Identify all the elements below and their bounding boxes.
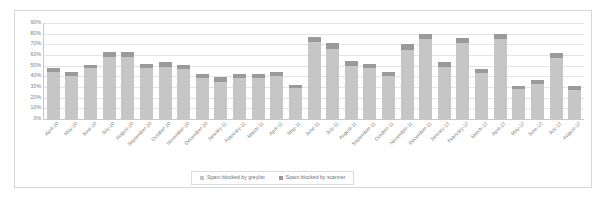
- bar-segment-greylist: [363, 68, 376, 119]
- x-axis-tick-label: April-12: [491, 121, 507, 137]
- bar-segment-greylist: [140, 68, 153, 119]
- y-axis-tick-label: 60%: [17, 52, 41, 57]
- bar-stack[interactable]: [308, 23, 321, 119]
- x-axis-tick-label: April-10: [44, 121, 60, 137]
- legend-swatch-greylist: [200, 176, 204, 180]
- bar-segment-scanner: [103, 52, 116, 57]
- bar-stack[interactable]: [363, 23, 376, 119]
- bar-stack[interactable]: [84, 23, 97, 119]
- bar-stack[interactable]: [568, 23, 581, 119]
- bar-stack[interactable]: [382, 23, 395, 119]
- x-axis-tick-label: June-10: [81, 121, 97, 137]
- bar-segment-greylist: [512, 89, 525, 119]
- x-axis-tick-label: July-10: [101, 121, 116, 136]
- bar-stack[interactable]: [401, 23, 414, 119]
- bar-segment-greylist: [233, 78, 246, 119]
- y-axis-tick-label: 10%: [17, 106, 41, 111]
- x-axis-tick-label: March-11: [246, 121, 264, 139]
- bar-stack[interactable]: [326, 23, 339, 119]
- x-axis-tick-label: May-10: [63, 121, 78, 136]
- bar-segment-scanner: [568, 86, 581, 90]
- bar-stack[interactable]: [270, 23, 283, 119]
- legend-label-greylist: Spam blocked by greylist: [207, 175, 265, 180]
- bar-segment-greylist: [65, 76, 78, 119]
- x-axis-labels: April-10May-10June-10July-10August-10Sep…: [44, 121, 584, 167]
- bar-stack[interactable]: [531, 23, 544, 119]
- y-axis-tick-label: 90%: [17, 20, 41, 25]
- bar-segment-scanner: [456, 38, 469, 43]
- bar-stack[interactable]: [456, 23, 469, 119]
- y-axis-tick-label: 80%: [17, 31, 41, 36]
- bar-segment-scanner: [196, 74, 209, 78]
- bar-segment-scanner: [214, 77, 227, 81]
- bar-stack[interactable]: [233, 23, 246, 119]
- plot-area: [44, 23, 584, 119]
- chart-container: 90%80%70%60%50%40%30%20%10%0% April-10Ma…: [14, 10, 592, 188]
- bar-stack[interactable]: [214, 23, 227, 119]
- bar-segment-scanner: [382, 72, 395, 76]
- bar-stack[interactable]: [289, 23, 302, 119]
- bar-segment-scanner: [121, 52, 134, 57]
- bar-stack[interactable]: [419, 23, 432, 119]
- bar-stack[interactable]: [47, 23, 60, 119]
- bar-segment-scanner: [326, 43, 339, 48]
- x-axis-tick-label: May-11: [287, 121, 302, 136]
- bar-segment-greylist: [326, 49, 339, 119]
- legend-label-scanner: Spam blocked by scanner: [286, 175, 346, 180]
- bar-segment-greylist: [121, 57, 134, 119]
- x-axis-tick-label: July-11: [324, 121, 339, 136]
- bar-segment-greylist: [456, 43, 469, 119]
- bar-stack[interactable]: [252, 23, 265, 119]
- bar-segment-scanner: [140, 64, 153, 68]
- y-axis-tick-label: 20%: [17, 95, 41, 100]
- bar-segment-scanner: [419, 34, 432, 39]
- bar-stack[interactable]: [438, 23, 451, 119]
- bar-stack[interactable]: [140, 23, 153, 119]
- bar-segment-greylist: [401, 50, 414, 119]
- x-axis-tick-label: August-12: [562, 121, 582, 141]
- bar-segment-greylist: [419, 39, 432, 119]
- bar-segment-greylist: [568, 90, 581, 119]
- bar-segment-scanner: [475, 69, 488, 73]
- bar-segment-greylist: [196, 78, 209, 119]
- bar-segment-greylist: [177, 69, 190, 119]
- bar-segment-scanner: [401, 44, 414, 49]
- x-axis-tick-label: March-12: [470, 121, 488, 139]
- bar-segment-greylist: [382, 76, 395, 119]
- bar-stack[interactable]: [475, 23, 488, 119]
- bar-stack[interactable]: [65, 23, 78, 119]
- bar-segment-greylist: [475, 73, 488, 119]
- y-axis-labels: 90%80%70%60%50%40%30%20%10%0%: [15, 23, 41, 119]
- bar-segment-scanner: [438, 62, 451, 66]
- bar-segment-greylist: [214, 82, 227, 119]
- bar-segment-scanner: [531, 80, 544, 84]
- bar-stack[interactable]: [345, 23, 358, 119]
- bar-segment-scanner: [345, 61, 358, 65]
- bar-segment-greylist: [252, 78, 265, 119]
- gridline: [44, 119, 584, 120]
- y-axis-tick-label: 50%: [17, 63, 41, 68]
- bar-segment-greylist: [494, 39, 507, 119]
- y-axis-tick-label: 70%: [17, 42, 41, 47]
- x-axis-tick-label: April-11: [268, 121, 283, 136]
- bar-stack[interactable]: [177, 23, 190, 119]
- bar-segment-scanner: [270, 72, 283, 76]
- bar-segment-greylist: [270, 76, 283, 119]
- bar-segment-greylist: [47, 72, 60, 119]
- bar-stack[interactable]: [121, 23, 134, 119]
- bar-segment-scanner: [47, 68, 60, 72]
- x-axis-tick-label: June-12: [528, 121, 544, 137]
- bar-segment-greylist: [550, 58, 563, 119]
- bar-segment-scanner: [512, 86, 525, 89]
- bar-stack[interactable]: [550, 23, 563, 119]
- bar-stack[interactable]: [196, 23, 209, 119]
- chart-legend: Spam blocked by greylist Spam blocked by…: [191, 171, 354, 185]
- bar-segment-greylist: [84, 68, 97, 119]
- bar-stack[interactable]: [159, 23, 172, 119]
- legend-item-greylist: Spam blocked by greylist: [200, 175, 265, 180]
- x-axis-tick-label: July-12: [548, 121, 563, 136]
- bar-segment-scanner: [65, 72, 78, 76]
- bar-stack[interactable]: [512, 23, 525, 119]
- bar-stack[interactable]: [103, 23, 116, 119]
- bar-stack[interactable]: [494, 23, 507, 119]
